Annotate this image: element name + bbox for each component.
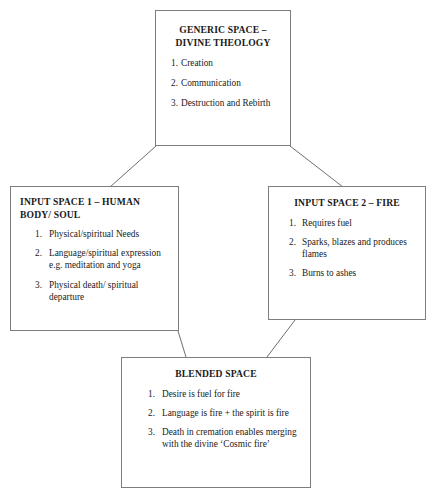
node-generic-space: GENERIC SPACE – DIVINE THEOLOGY 1. Creat… (155, 10, 291, 146)
list-item-number: 3. (285, 267, 296, 279)
list-item: 1. Desire is fuel for fire (143, 388, 300, 400)
node-input-space-1: INPUT SPACE 1 – HUMAN BODY/ SOUL 1. Phys… (10, 186, 179, 331)
list-item-number: 1. (143, 388, 155, 400)
connector-generic-to-input1 (110, 146, 156, 187)
node-input-space-2: INPUT SPACE 2 – FIRE 1. Requires fuel 2.… (268, 186, 426, 320)
list-item: 2. Language/spiritual expression e.g. me… (29, 247, 170, 271)
node-generic-space-title: GENERIC SPACE – DIVINE THEOLOGY (167, 24, 279, 49)
list-item-text: Physical/spiritual Needs (49, 228, 170, 240)
list-item-number: 2. (285, 236, 296, 260)
list-item-number: 1. (285, 217, 296, 229)
list-item: 2. Sparks, blazes and produces flames (285, 236, 416, 260)
node-input-space-1-title: INPUT SPACE 1 – HUMAN BODY/ SOUL (20, 196, 170, 221)
list-item-number: 3. (167, 97, 178, 109)
node-blended-space: BLENDED SPACE 1. Desire is fuel for fire… (121, 357, 311, 488)
node-input-space-1-list: 1. Physical/spiritual Needs 2. Language/… (20, 228, 170, 302)
list-item-number: 2. (143, 407, 155, 419)
list-item-number: 3. (29, 279, 42, 303)
connector-input1-to-blended (178, 331, 186, 357)
list-item-text: Language is fire + the spirit is fire (162, 407, 300, 419)
connector-input2-to-blended (267, 320, 295, 357)
list-item: 3. Burns to ashes (285, 267, 416, 279)
list-item-text: Physical death/ spiritual departure (49, 279, 170, 303)
node-generic-space-title-line1: GENERIC SPACE – (167, 24, 279, 37)
list-item-number: 2. (29, 247, 42, 271)
list-item: 1. Physical/spiritual Needs (29, 228, 170, 240)
node-input-space-2-title: INPUT SPACE 2 – FIRE (278, 197, 416, 210)
list-item: 3. Destruction and Rebirth (167, 97, 279, 109)
list-item: 3. Death in cremation enables merging wi… (143, 426, 300, 450)
node-blended-space-title: BLENDED SPACE (132, 368, 300, 381)
conceptual-blending-diagram: GENERIC SPACE – DIVINE THEOLOGY 1. Creat… (0, 0, 432, 497)
list-item-text: Communication (181, 77, 279, 89)
list-item-text: Creation (181, 57, 279, 69)
list-item-number: 3. (143, 426, 155, 450)
list-item: 2. Communication (167, 77, 279, 89)
list-item-text: Burns to ashes (302, 267, 416, 279)
list-item: 1. Creation (167, 57, 279, 69)
connector-generic-to-input2 (290, 146, 343, 187)
list-item-number: 1. (29, 228, 42, 240)
node-blended-space-list: 1. Desire is fuel for fire 2. Language i… (132, 388, 300, 450)
list-item-text: Requires fuel (302, 217, 416, 229)
node-generic-space-title-line2: DIVINE THEOLOGY (167, 37, 279, 50)
node-input-space-2-list: 1. Requires fuel 2. Sparks, blazes and p… (278, 217, 416, 279)
list-item-number: 1. (167, 57, 178, 69)
list-item: 1. Requires fuel (285, 217, 416, 229)
list-item-text: Language/spiritual expression e.g. medit… (49, 247, 170, 271)
list-item: 2. Language is fire + the spirit is fire (143, 407, 300, 419)
list-item-text: Desire is fuel for fire (162, 388, 300, 400)
list-item: 3. Physical death/ spiritual departure (29, 279, 170, 303)
node-generic-space-list: 1. Creation 2. Communication 3. Destruct… (167, 57, 279, 109)
list-item-text: Destruction and Rebirth (181, 97, 279, 109)
list-item-text: Sparks, blazes and produces flames (302, 236, 416, 260)
list-item-number: 2. (167, 77, 178, 89)
list-item-text: Death in cremation enables merging with … (162, 426, 300, 450)
